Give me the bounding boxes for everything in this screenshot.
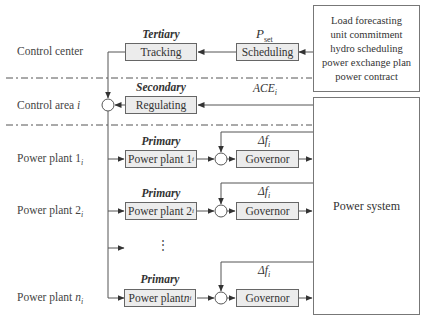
level-primary-2: Primary (125, 187, 197, 199)
signal-delta-f-2-symbol: Δf (258, 185, 268, 197)
row-label-plant-n: Power plant ni (17, 291, 83, 306)
tracking-block: Tracking (125, 43, 197, 61)
row-label-control-area-index: i (77, 99, 80, 111)
signal-delta-f-n-symbol: Δf (258, 264, 268, 276)
governor-block-2: Governor (236, 202, 299, 220)
plant-block-n-text: Power plant (129, 292, 184, 304)
level-primary-1: Primary (125, 135, 197, 147)
signal-delta-f-1-subscript: i (268, 140, 270, 149)
signal-ace-symbol: ACE (253, 82, 275, 94)
signal-ace: ACEi (253, 82, 277, 97)
row-label-plant-n-index: i (81, 297, 83, 306)
row-label-control-center: Control center (17, 45, 83, 57)
planning-box: Load forecasting unit commitment hydro s… (313, 5, 420, 92)
signal-p-set-symbol: P (256, 26, 264, 41)
plant-block-n: Power plant ni (124, 289, 196, 307)
signal-p-set-subscript: set (264, 35, 273, 44)
plant-block-1: Power plant 1i (125, 150, 197, 168)
plant-block-1-text: Power plant 1 (128, 153, 192, 165)
signal-delta-f-n: Δfi (258, 264, 270, 279)
scheduling-block: Scheduling (236, 43, 299, 61)
plant-block-n-index: i (190, 294, 192, 302)
ellipsis-more-plants: ⋮ (157, 238, 169, 253)
signal-delta-f-2-subscript: i (268, 191, 270, 200)
plant-block-1-index: i (192, 155, 194, 163)
plant-block-2-text: Power plant 2 (128, 205, 192, 217)
row-label-plant-1-index: i (81, 158, 83, 167)
row-label-plant-2-text: Power plant 2 (17, 204, 81, 216)
regulating-block: Regulating (125, 96, 197, 114)
planning-line-4: power exchange plan (322, 56, 411, 70)
governor-block-1: Governor (236, 150, 299, 168)
signal-ace-subscript: i (275, 88, 277, 97)
row-label-plant-n-text: Power plant (17, 291, 75, 303)
signal-delta-f-2: Δfi (258, 185, 270, 200)
row-label-control-area: Control area i (17, 99, 80, 111)
planning-line-5: power contract (335, 70, 398, 84)
level-primary-n: Primary (124, 273, 196, 285)
planning-line-1: Load forecasting (331, 14, 402, 28)
signal-delta-f-1: Δfi (258, 134, 270, 149)
level-tertiary: Tertiary (125, 28, 197, 40)
row-label-plant-1: Power plant 1i (17, 152, 83, 167)
signal-delta-f-1-symbol: Δf (258, 134, 268, 146)
row-label-plant-1-text: Power plant 1 (17, 152, 81, 164)
row-label-control-area-text: Control area (17, 99, 74, 111)
power-system-box: Power system (313, 97, 420, 315)
planning-line-3: hydro scheduling (330, 42, 403, 56)
signal-delta-f-n-subscript: i (268, 270, 270, 279)
signal-p-set: Pset (256, 26, 273, 44)
row-label-plant-2: Power plant 2i (17, 204, 83, 219)
plant-block-2: Power plant 2i (125, 202, 197, 220)
level-secondary: Secondary (120, 81, 202, 93)
governor-block-n: Governor (236, 289, 299, 307)
planning-line-2: unit commitment (330, 28, 402, 42)
plant-block-2-index: i (192, 207, 194, 215)
row-label-plant-2-index: i (81, 210, 83, 219)
